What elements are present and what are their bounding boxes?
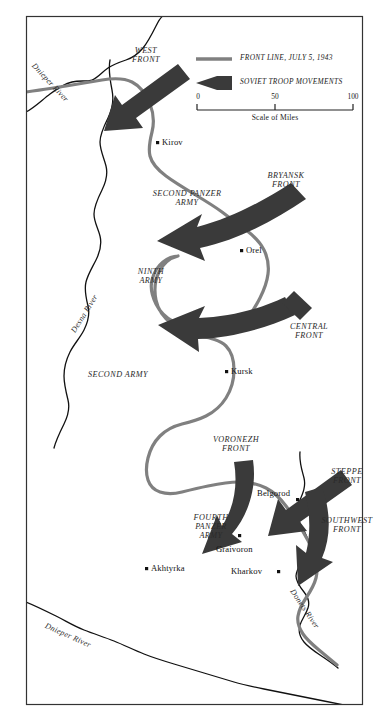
front-label-west-front: WEST FRONT <box>121 47 171 65</box>
city-dot-akhtyrka <box>145 567 148 570</box>
scale-tick-label-100: 100 <box>344 93 362 101</box>
city-dot-kirov <box>156 141 159 144</box>
front-label-bryansk-front: BRYANSK FRONT <box>256 172 316 190</box>
front-label-steppe-front: STEPPE FRONT <box>321 468 373 486</box>
army-label-fourth-panzer-army: FOURTH PANZER ARMY <box>180 514 242 541</box>
kursk-battle-map: FRONT LINE, JULY 5, 1943 SOVIET TROOP MO… <box>0 0 389 721</box>
map-background <box>0 0 389 721</box>
city-dot-kharkov <box>277 570 280 573</box>
map-canvas <box>0 0 389 721</box>
legend-front-line-label: FRONT LINE, JULY 5, 1943 <box>240 54 333 62</box>
scale-tick-label-0: 0 <box>191 93 205 101</box>
city-label-orel: Orel <box>246 246 262 255</box>
city-label-kursk: Kursk <box>231 367 253 376</box>
front-label-voronezh-front: VORONEZH FRONT <box>203 436 269 454</box>
city-label-akhtyrka: Akhtyrka <box>151 564 185 573</box>
city-label-kharkov: Kharkov <box>231 567 262 576</box>
front-label-southwest-front: SOUTHWEST FRONT <box>311 517 383 535</box>
city-dot-orel <box>240 249 243 252</box>
city-label-kirov: Kirov <box>162 138 183 147</box>
scale-caption: Scale of Miles <box>235 114 315 122</box>
city-label-graivoron: Graivoron <box>216 545 253 554</box>
army-label-ninth-army: NINTH ARMY <box>128 268 174 286</box>
front-label-central-front: CENTRAL FRONT <box>280 323 338 341</box>
city-label-belgorod: Belgorod <box>257 489 290 498</box>
city-dot-kursk <box>225 370 228 373</box>
army-label-second-panzer-army: SECOND PANZER ARMY <box>143 190 231 208</box>
city-dot-belgorod <box>296 498 299 501</box>
scale-tick-label-50: 50 <box>268 93 282 101</box>
army-label-second-army: SECOND ARMY <box>82 371 154 380</box>
legend-troop-movement-label: SOVIET TROOP MOVEMENTS <box>240 78 342 86</box>
